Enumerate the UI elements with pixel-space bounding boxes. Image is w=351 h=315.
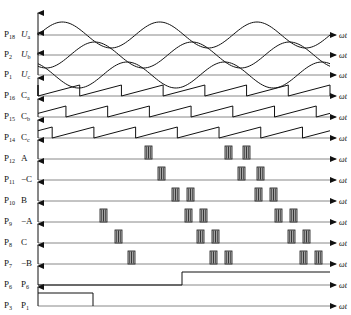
pin-label-sub: 14: [9, 137, 15, 143]
pulse-burst-negA-1: [185, 209, 192, 222]
waveform-canvas: P18UaωtP2UbωtP1UcωtP16CaωtP15CbωtP14Ccωt…: [0, 0, 351, 315]
signal-label-A: A: [21, 153, 28, 163]
pulse-burst-negA-3: [275, 209, 282, 222]
signal-label-sub: a: [28, 34, 31, 40]
axis-label-Ca: ωt: [339, 92, 348, 101]
axis-label-P1: ωt: [339, 302, 348, 311]
signal-label-Cc: Cc: [21, 132, 30, 143]
waveform-row-Ca: P16Caωt: [4, 78, 348, 101]
pulse-burst-negC-1: [238, 167, 245, 180]
pulse-burst-C-0: [115, 230, 122, 243]
signal-label-main: B: [21, 195, 27, 205]
signal-label-Ca: Ca: [21, 90, 30, 101]
pulse-burst-negC-2: [257, 167, 264, 180]
pulse-burst-C-2: [212, 230, 219, 243]
signal-label-main: A: [21, 153, 28, 163]
waveform-row-negA: P9−Aωt: [4, 203, 348, 227]
sawtooth-wave-Cb: [38, 106, 330, 117]
waveform-row-C: P8Cωt: [4, 224, 348, 248]
axis-label-negA: ωt: [339, 218, 348, 227]
pulse-burst-B-2: [255, 188, 262, 201]
pulse-burst-negB-1: [210, 251, 217, 264]
waveform-row-A: P12Aωt: [4, 140, 348, 164]
axis-label-B: ωt: [339, 197, 348, 206]
pin-label-A: P12: [4, 153, 15, 164]
pulse-burst-C-1: [197, 230, 204, 243]
signal-label-Uc: Uc: [21, 69, 31, 80]
pin-label-sub: 15: [9, 116, 15, 122]
pulse-burst-A-2: [243, 146, 250, 159]
pin-label-Cc: P14: [4, 132, 15, 143]
signal-label-negA: −A: [21, 216, 33, 226]
axis-label-Cb: ωt: [339, 113, 348, 122]
axis-label-Cc: ωt: [339, 134, 348, 143]
pin-label-negA: P9: [4, 216, 12, 227]
signal-label-Cb: Cb: [21, 111, 30, 122]
pulse-burst-negA-4: [290, 209, 297, 222]
pin-label-sub: 12: [9, 158, 15, 164]
step-signal-P6: [38, 272, 330, 285]
pulse-burst-A-1: [225, 146, 232, 159]
axis-label-Ub: ωt: [339, 51, 348, 60]
signal-label-sub: 1: [26, 305, 29, 311]
axis-label-A: ωt: [339, 155, 348, 164]
waveform-row-B: P10Bωt: [4, 182, 348, 206]
waveform-row-Ub: P2Ubωt: [4, 33, 348, 68]
pin-label-negC: P11: [4, 174, 15, 185]
signal-label-sub: c: [28, 74, 31, 80]
sawtooth-wave-Cc: [38, 127, 330, 138]
signal-label-B: B: [21, 195, 27, 205]
waveform-diagram: P18UaωtP2UbωtP1UcωtP16CaωtP15CbωtP14Ccωt…: [0, 0, 351, 315]
waveform-row-negB: P7−Bωt: [4, 245, 348, 269]
waveform-row-Cb: P15Cbωt: [4, 99, 348, 122]
signal-label-negB: −B: [21, 258, 32, 268]
pulse-burst-A-0: [145, 146, 152, 159]
signal-label-main: −B: [21, 258, 32, 268]
pulse-burst-negB-4: [315, 251, 322, 264]
step-signal-P1: [38, 293, 93, 306]
pin-label-B: P10: [4, 195, 15, 206]
signal-label-main: −C: [21, 174, 32, 184]
signal-label-sub: c: [27, 137, 30, 143]
pin-label-sub: 3: [9, 305, 12, 311]
pin-label-sub: 1: [9, 74, 12, 80]
axis-label-negC: ωt: [339, 176, 348, 185]
pulse-burst-C-4: [303, 230, 310, 243]
pin-label-P6: P6: [4, 279, 12, 290]
pin-label-sub: 16: [9, 95, 15, 101]
signal-label-sub: b: [27, 116, 30, 122]
pulse-burst-B-1: [187, 188, 194, 201]
pulse-burst-negC-0: [158, 167, 165, 180]
waveform-row-Uc: P1Ucωt: [4, 53, 348, 88]
signal-label-main: −A: [21, 216, 33, 226]
pin-label-sub: 9: [9, 221, 12, 227]
pin-label-sub: 10: [9, 200, 15, 206]
pin-label-sub: 8: [9, 242, 12, 248]
signal-label-main: C: [21, 237, 27, 247]
axis-label-Uc: ωt: [339, 71, 348, 80]
axis-label-P6: ωt: [339, 281, 348, 290]
pin-label-P1: P3: [4, 300, 12, 311]
signal-label-sub: b: [28, 54, 31, 60]
pin-label-Ub: P2: [4, 49, 12, 60]
pin-label-sub: 11: [9, 179, 15, 185]
pulse-burst-negA-2: [200, 209, 207, 222]
pin-label-Ca: P16: [4, 90, 15, 101]
pulse-burst-negB-3: [300, 251, 307, 264]
waveform-row-Cc: P14Ccωt: [4, 120, 348, 143]
pulse-burst-negA-0: [100, 209, 107, 222]
pin-label-C: P8: [4, 237, 12, 248]
pin-label-sub: 18: [9, 34, 15, 40]
signal-label-C: C: [21, 237, 27, 247]
pulse-burst-B-0: [172, 188, 179, 201]
pulse-burst-B-3: [270, 188, 277, 201]
pin-label-negB: P7: [4, 258, 12, 269]
pin-label-Cb: P15: [4, 111, 15, 122]
signal-label-Ua: Ua: [21, 29, 31, 40]
signal-label-Ub: Ub: [21, 49, 31, 60]
signal-label-negC: −C: [21, 174, 32, 184]
waveform-row-P6: P6P6ωt: [4, 266, 348, 290]
waveform-row-negC: P11−Cωt: [4, 161, 348, 185]
signal-label-P6: P6: [21, 279, 29, 290]
axis-label-negB: ωt: [339, 260, 348, 269]
